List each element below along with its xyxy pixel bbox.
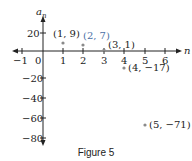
data-point	[102, 48, 105, 51]
point-label: (3, 1)	[108, 39, 135, 50]
y-tick-label: −40	[22, 93, 43, 104]
x-axis-left-arrow-icon	[12, 49, 18, 54]
x-axis-right-arrow-icon	[176, 49, 182, 54]
data-point	[61, 41, 64, 44]
scatter-plot: −1 0 1 2 3 4 5 6 20 −20 −40 −60 −80 an n…	[0, 0, 192, 161]
data-point	[122, 66, 125, 69]
x-tick-label: −1	[13, 55, 28, 66]
y-tick-label: 20	[27, 28, 40, 39]
y-axis-label: an	[36, 6, 47, 20]
x-tick-label: 2	[80, 55, 86, 66]
data-point	[143, 123, 146, 126]
y-tick-label: −20	[22, 73, 43, 84]
point-label: (4, −17)	[128, 62, 170, 73]
figure-caption: Figure 5	[0, 147, 192, 158]
point-label: (2, 7)	[83, 30, 110, 41]
y-tick-label: −80	[22, 133, 43, 144]
x-axis-label: n	[184, 45, 190, 56]
x-tick-label: 4	[121, 55, 127, 66]
data-point	[81, 43, 84, 46]
point-label: (1, 9)	[53, 28, 80, 39]
y-tick-label: −60	[22, 113, 43, 124]
x-tick-label: 0	[35, 55, 41, 66]
x-tick-label: 3	[101, 55, 107, 66]
point-label: (5, −71)	[149, 119, 191, 130]
x-tick-label: 1	[60, 55, 66, 66]
